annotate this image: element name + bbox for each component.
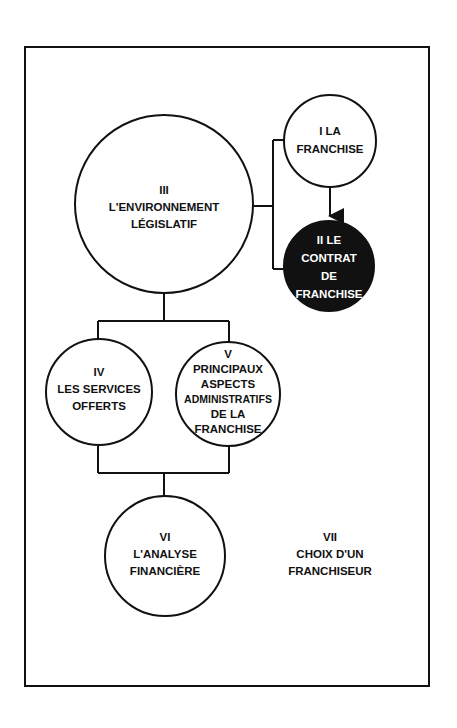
node-iv-line-1: IV <box>94 366 105 378</box>
node-v-line-6: FRANCHISE <box>194 423 261 435</box>
connector-iii-to-i-ii <box>253 140 290 269</box>
node-iv-line-2: LES SERVICES <box>57 383 141 395</box>
node-iii-line-1: III <box>159 184 169 196</box>
node-vi-line-1: VI <box>160 531 171 543</box>
node-v-principaux-aspects-administratifs: V PRINCIPAUX ASPECTS ADMINISTRATIFS DE L… <box>176 342 280 446</box>
node-ii-le-contrat-de-franchise: II LE CONTRAT DE FRANCHISE <box>284 221 374 311</box>
connector-iii-to-iv-v <box>98 293 229 343</box>
node-iii-line-2: L'ENVIRONNEMENT <box>109 201 220 213</box>
franchise-diagram: I LA FRANCHISE II LE CONTRAT DE FRANCHIS… <box>0 0 457 728</box>
node-vii-choix-franchiseur: VII CHOIX D'UN FRANCHISEUR <box>288 531 372 577</box>
connector-iv-v-to-vi <box>98 446 229 496</box>
node-v-line-5: DE LA <box>211 408 246 420</box>
node-v-line-4: ADMINISTRATIFS <box>184 393 272 405</box>
node-vi-line-3: FINANCIÈRE <box>130 565 201 577</box>
node-iv-les-services-offerts: IV LES SERVICES OFFERTS <box>46 339 152 445</box>
node-ii-line-4: FRANCHISE <box>295 288 362 300</box>
node-ii-line-3: DE <box>321 270 337 282</box>
node-v-line-3: ASPECTS <box>201 378 256 390</box>
node-vi-analyse-financiere: VI L'ANALYSE FINANCIÈRE <box>105 496 225 616</box>
node-ii-line-2: CONTRAT <box>301 252 356 264</box>
node-v-line-2: PRINCIPAUX <box>193 363 263 375</box>
node-vii-line-1: VII <box>323 531 337 543</box>
node-i-line-1: I LA <box>319 125 341 137</box>
node-iii-environnement-legislatif: III L'ENVIRONNEMENT LÉGISLATIF <box>75 115 253 293</box>
node-v-line-1: V <box>224 348 232 360</box>
node-iii-line-3: LÉGISLATIF <box>131 218 197 230</box>
node-ii-line-1: II LE <box>317 234 342 246</box>
node-i-line-2: FRANCHISE <box>296 143 363 155</box>
node-vii-line-2: CHOIX D'UN <box>296 548 363 560</box>
node-vi-line-2: L'ANALYSE <box>133 548 197 560</box>
node-iv-line-3: OFFERTS <box>72 400 126 412</box>
node-vii-line-3: FRANCHISEUR <box>288 565 372 577</box>
node-i-la-franchise: I LA FRANCHISE <box>284 95 376 187</box>
